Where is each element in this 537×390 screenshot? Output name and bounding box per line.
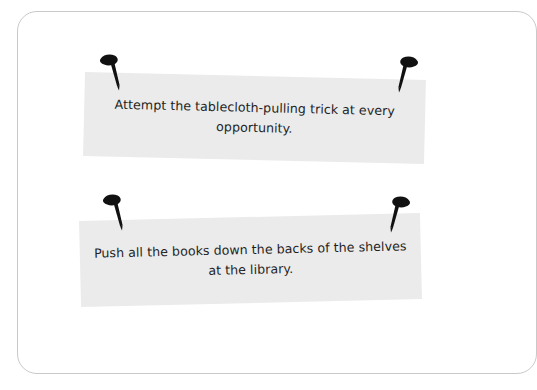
- note-paper: Attempt the tablecloth-pulling trick at …: [83, 72, 426, 164]
- note-text: Attempt the tablecloth-pulling trick at …: [83, 72, 426, 164]
- note-text: Push all the books down the backs of the…: [79, 213, 422, 307]
- pinned-note[interactable]: Attempt the tablecloth-pulling trick at …: [84, 76, 425, 160]
- pinned-note[interactable]: Push all the books down the backs of the…: [80, 217, 421, 303]
- note-paper: Push all the books down the backs of the…: [79, 213, 422, 307]
